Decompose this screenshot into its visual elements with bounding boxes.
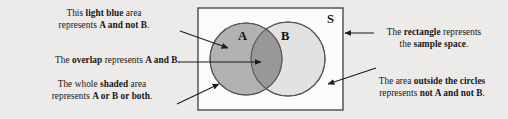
annotation-text: represents	[52, 91, 93, 101]
annotation-emphasis: A or B or both	[92, 91, 150, 101]
annotation-text: This	[66, 8, 85, 18]
annotation-line: represents not A and not B.	[356, 88, 508, 100]
annotation-shaded-area: The whole shaded arearepresents A or B o…	[24, 79, 180, 102]
annotation-emphasis: overlap	[72, 55, 102, 65]
annotation-text: represents	[59, 20, 100, 30]
annotation-emphasis: A and B	[145, 55, 177, 65]
annotation-outside-circles: The area outside the circlesrepresents n…	[356, 76, 508, 99]
annotation-text: .	[147, 20, 149, 30]
annotation-text: area	[128, 79, 146, 89]
annotation-rectangle: The rectangle representsthe sample space…	[360, 27, 508, 50]
annotation-overlap: The overlap represents A and B.	[4, 55, 180, 67]
annotation-text: represents	[102, 55, 145, 65]
annotation-text: .	[466, 39, 468, 49]
annotation-line: The overlap represents A and B.	[4, 55, 180, 67]
annotation-text: represents	[379, 88, 420, 98]
annotation-text: .	[178, 55, 180, 65]
annotation-line: The rectangle represents	[360, 27, 508, 39]
annotation-text: The whole	[58, 79, 100, 89]
annotation-emphasis: sample space	[414, 39, 467, 49]
annotation-emphasis: shaded	[100, 79, 128, 89]
annotation-line: The whole shaded area	[24, 79, 180, 91]
annotation-emphasis: rectangle	[404, 27, 441, 37]
annotation-line: represents A and not B.	[28, 20, 180, 32]
annotation-text: .	[482, 88, 484, 98]
annotation-emphasis: not A and not B	[420, 88, 483, 98]
venn-diagram-figure: A B S This light blue arearepresents A a…	[0, 0, 508, 119]
annotation-text: The	[387, 27, 404, 37]
annotation-line: This light blue area	[28, 8, 180, 20]
annotation-light-blue-area: This light blue arearepresents A and not…	[28, 8, 180, 31]
annotation-text: the	[400, 39, 414, 49]
annotation-emphasis: light blue	[86, 8, 124, 18]
annotation-text: area	[124, 8, 142, 18]
annotation-line: The area outside the circles	[356, 76, 508, 88]
annotation-text: represents	[441, 27, 482, 37]
annotation-emphasis: outside the circles	[414, 76, 486, 86]
annotation-text: The	[55, 55, 72, 65]
annotation-line: the sample space.	[360, 39, 508, 51]
annotation-line: represents A or B or both.	[24, 91, 180, 103]
annotation-text: The area	[379, 76, 414, 86]
annotation-text: .	[150, 91, 152, 101]
annotation-emphasis: A and not B	[99, 20, 147, 30]
